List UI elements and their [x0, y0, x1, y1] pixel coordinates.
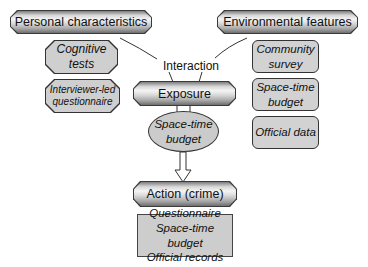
action-crime-label: Action (crime) — [134, 182, 236, 206]
cognitive-tests-node: Cognitive tests — [45, 40, 118, 74]
official-data-box: Official data — [252, 116, 319, 149]
cognitive-tests-line2: tests — [56, 57, 106, 72]
exposure-node: Exposure — [133, 81, 236, 106]
interviewer-questionnaire-box: Interviewer-led questionnaire — [46, 80, 119, 112]
interviewer-questionnaire-node: Interviewer-led questionnaire — [45, 79, 120, 113]
exposure-measure-ellipse: Space-time budget — [148, 111, 219, 152]
cognitive-tests-line1: Cognitive — [56, 42, 106, 57]
interviewer-questionnaire-line2: questionnaire — [50, 96, 115, 109]
community-survey-line2: survey — [256, 57, 314, 71]
community-survey-box: Community survey — [252, 40, 319, 73]
community-survey-line1: Community — [256, 42, 314, 56]
environmental-features-node: Environmental features — [217, 10, 358, 34]
action-measure-space-time-budget: Space-time budget — [138, 221, 232, 250]
action-measure-questionnaire: Questionnaire — [149, 206, 221, 221]
env-space-time-budget-box: Space-time budget — [252, 78, 319, 111]
environmental-features-label: Environmental features — [218, 11, 357, 33]
env-space-time-line1: Space-time — [256, 80, 314, 94]
action-measures-box: Questionnaire Space-time budget Official… — [137, 214, 233, 257]
interviewer-questionnaire-line1: Interviewer-led — [50, 84, 115, 97]
env-space-time-line2: budget — [256, 95, 314, 109]
exposure-label: Exposure — [134, 82, 235, 105]
interaction-label: Interaction — [156, 59, 226, 73]
exposure-measure-line2: budget — [154, 132, 212, 146]
cognitive-tests-box: Cognitive tests — [46, 41, 117, 73]
action-crime-node: Action (crime) — [133, 181, 237, 207]
action-measure-official-records: Official records — [147, 250, 224, 265]
official-data-label: Official data — [255, 125, 316, 139]
personal-characteristics-label: Personal characteristics — [11, 11, 151, 33]
exposure-measure-line1: Space-time — [154, 117, 212, 131]
personal-characteristics-node: Personal characteristics — [10, 10, 152, 34]
